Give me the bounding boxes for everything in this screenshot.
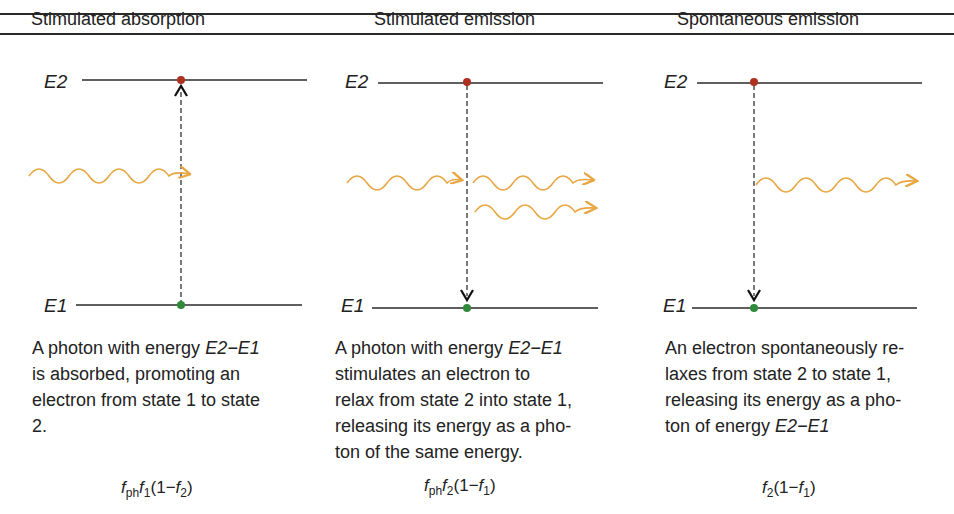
description-stimulated-emission: A photon with energy E2−E1 stimulates an…: [335, 335, 635, 465]
energy-level-diagrams: E2 E1 E2 E1 E2 E1: [0, 0, 954, 330]
energy-expression: E2−E1: [508, 338, 563, 358]
description-line: An electron spontaneously re-: [665, 335, 954, 361]
description-stimulated-absorption: A photon with energy E2−E1 is absorbed, …: [32, 335, 322, 439]
lower-electron-dot: [463, 304, 471, 312]
emitted-photon-wave-icon: [756, 178, 916, 192]
description-line: is absorbed, promoting an: [32, 361, 322, 387]
formula-subscript: 2: [180, 486, 187, 500]
description-line: ton of energy: [665, 416, 775, 436]
description-line: A photon with energy: [32, 338, 205, 358]
level-label-e2: E2: [664, 71, 688, 92]
formula-subscript: 1: [803, 486, 810, 500]
incoming-photon-wave-icon: [347, 176, 461, 190]
description-line: relax from state 2 into state 1,: [335, 387, 635, 413]
upper-electron-dot: [463, 78, 471, 86]
rate-formula-spontaneous-emission: f2(1−f1): [762, 478, 816, 500]
level-label-e1: E1: [341, 295, 364, 316]
lower-electron-dot: [750, 304, 758, 312]
upper-electron-dot: [177, 76, 185, 84]
rate-formula-absorption: fphf1(1−f2): [121, 478, 193, 500]
description-line: laxes from state 2 to state 1,: [665, 361, 954, 387]
level-label-e1: E1: [663, 295, 686, 316]
formula-part: (1−: [773, 478, 798, 497]
formula-part: ): [810, 478, 816, 497]
formula-subscript: ph: [429, 484, 442, 498]
energy-expression: E2−E1: [205, 338, 260, 358]
level-label-e2: E2: [44, 71, 68, 92]
description-line: releasing its energy as a pho-: [335, 413, 635, 439]
description-line: releasing its energy as a pho-: [665, 387, 954, 413]
description-line: stimulates an electron to: [335, 361, 635, 387]
panel-spontaneous-emission: E2 E1: [663, 71, 922, 316]
formula-part: (1−: [454, 476, 479, 495]
formula-part: ): [187, 478, 193, 497]
lower-electron-dot: [177, 301, 185, 309]
formula-part: (1−: [151, 478, 176, 497]
description-line: electron from state 1 to state: [32, 387, 322, 413]
formula-subscript: ph: [126, 486, 139, 500]
formula-subscript: 1: [144, 486, 151, 500]
formula-subscript: 2: [447, 484, 454, 498]
description-line: 2.: [32, 413, 322, 439]
panel-stimulated-emission: E2 E1: [341, 71, 603, 316]
description-spontaneous-emission: An electron spontaneously re- laxes from…: [665, 335, 954, 439]
energy-expression: E2−E1: [775, 416, 830, 436]
outgoing-photon-wave-icon: [473, 176, 593, 190]
level-label-e2: E2: [345, 71, 369, 92]
description-line: ton of the same energy.: [335, 439, 635, 465]
formula-subscript: 1: [483, 484, 490, 498]
rate-formula-stimulated-emission: fphf2(1−f1): [424, 476, 496, 498]
description-line: A photon with energy: [335, 338, 508, 358]
upper-electron-dot: [750, 78, 758, 86]
panel-stimulated-absorption: E2 E1: [29, 71, 307, 316]
formula-part: ): [490, 476, 496, 495]
level-label-e1: E1: [44, 295, 67, 316]
incoming-photon-wave-icon: [29, 169, 189, 183]
outgoing-photon-wave-icon: [475, 205, 595, 219]
